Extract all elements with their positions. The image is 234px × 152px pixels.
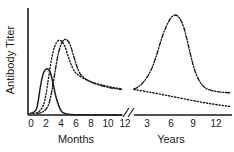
x-tick-years-3: 3 xyxy=(144,118,150,129)
series-primary-solid-curve xyxy=(30,69,122,115)
series-secondary-dotted-curve-months xyxy=(33,40,122,113)
series-booster-dashdot-curve-years xyxy=(134,15,231,93)
x-tick-months-2: 2 xyxy=(43,118,49,129)
series-secondary-dotted-curve-years xyxy=(134,90,231,107)
x-tick-months-4: 4 xyxy=(58,118,64,129)
x-tick-years-12: 12 xyxy=(210,118,221,129)
x-tick-months-10: 10 xyxy=(102,118,113,129)
chart-plot-area xyxy=(0,0,234,152)
x-axis-caption-years: Years xyxy=(157,133,185,145)
x-tick-months-12: 12 xyxy=(119,118,130,129)
x-tick-years-9: 9 xyxy=(190,118,196,129)
x-tick-years-6: 6 xyxy=(168,118,174,129)
x-tick-months-0: 0 xyxy=(28,118,34,129)
x-axis-caption-months: Months xyxy=(58,133,94,145)
axis-break-icon xyxy=(123,108,134,117)
x-tick-months-6: 6 xyxy=(73,118,79,129)
antibody-titer-chart: Antibody Titer 0 2 4 6 8 10 12 3 6 9 12 … xyxy=(0,0,234,152)
x-tick-months-8: 8 xyxy=(88,118,94,129)
